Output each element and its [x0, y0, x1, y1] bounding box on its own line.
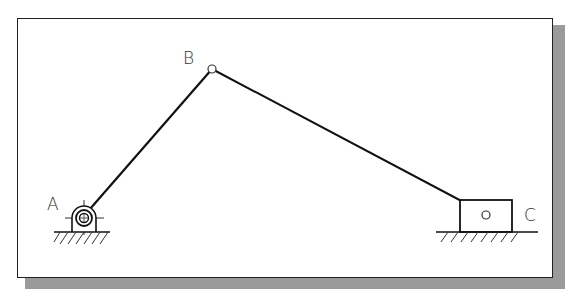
- crank-link-ab: [83, 69, 212, 217]
- joint-b: [208, 65, 216, 73]
- connecting-rod-bc: [212, 69, 486, 214]
- label-b: B: [183, 48, 194, 68]
- fixed-pivot-a: [54, 200, 110, 244]
- slider-block-c: [436, 200, 538, 242]
- label-a: A: [47, 194, 59, 214]
- mechanism-diagram: B A: [0, 0, 576, 299]
- label-c: C: [524, 205, 536, 225]
